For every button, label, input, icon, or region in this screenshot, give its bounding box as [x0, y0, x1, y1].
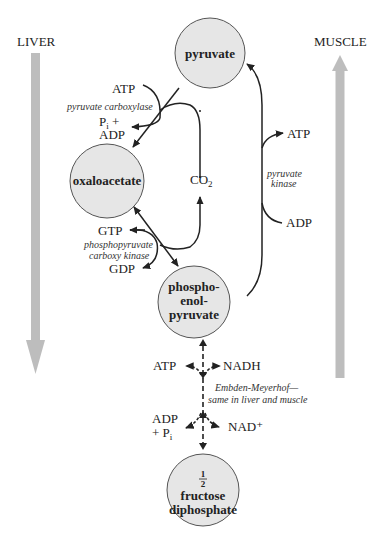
- adp-out-label: ADP: [99, 127, 125, 142]
- svg-text:pyruvate: pyruvate: [169, 307, 219, 322]
- muscle-up-arrow: [332, 55, 348, 378]
- muscle-label: MUSCLE: [314, 34, 367, 49]
- atp-in-label: ATP: [112, 81, 135, 96]
- node-pyruvate: pyruvate: [175, 18, 245, 88]
- pyruvate-carboxylase-step: ATP pyruvate carboxylase Pi + ADP: [66, 81, 179, 147]
- oxaloacetate-label: oxaloacetate: [73, 173, 142, 188]
- em-nadh-label: NADH: [223, 358, 261, 373]
- embden-meyerhof-step: ATP NADH Embden-Meyerhof— same in liver …: [152, 339, 308, 450]
- em-nad-label: NAD⁺: [228, 419, 263, 434]
- node-phosphoenolpyruvate: phospho- enol- pyruvate: [158, 266, 230, 338]
- liver-label: LIVER: [17, 34, 56, 49]
- em-note-line2: same in liver and muscle: [208, 394, 308, 405]
- co2-label: CO2: [190, 172, 213, 189]
- gdp-label: GDP: [109, 261, 135, 276]
- em-pi-label: + Pi: [152, 425, 173, 442]
- svg-text:fructose: fructose: [181, 488, 226, 503]
- pepck-label-line1: phosphopyruvate: [83, 239, 153, 250]
- svg-text:phospho-: phospho-: [168, 279, 219, 294]
- adp-in-label: ADP: [286, 215, 312, 230]
- liver-down-arrow: [26, 53, 45, 374]
- atp-out-label: ATP: [287, 126, 310, 141]
- gtp-label: GTP: [98, 223, 123, 238]
- pyruvate-kinase-step: ATP pyruvate kinase ADP: [247, 64, 312, 296]
- em-note-line1: Embden-Meyerhof—: [214, 382, 298, 393]
- gluconeogenesis-diagram: LIVER MUSCLE pyruvate oxaloacetate phosp…: [0, 0, 381, 538]
- pepck-label-line2: carboxy kinase: [89, 250, 150, 261]
- pepck-step: GTP phosphopyruvate carboxy kinase GDP: [83, 207, 178, 276]
- node-oxaloacetate: oxaloacetate: [70, 144, 144, 218]
- svg-text:diphosphate: diphosphate: [169, 502, 237, 517]
- em-adp-label: ADP: [152, 411, 178, 426]
- pyruvate-label: pyruvate: [185, 46, 235, 61]
- fraction-numerator: 1: [201, 469, 206, 479]
- node-fructose-diphosphate: 1 2 fructose diphosphate: [167, 454, 239, 526]
- svg-text:enol-: enol-: [180, 293, 207, 308]
- pyruvate-carboxylase-label: pyruvate carboxylase: [66, 101, 153, 112]
- em-atp-label: ATP: [153, 358, 176, 373]
- co2-loop: CO2: [160, 103, 213, 249]
- pyruvate-kinase-label-line2: kinase: [271, 178, 297, 189]
